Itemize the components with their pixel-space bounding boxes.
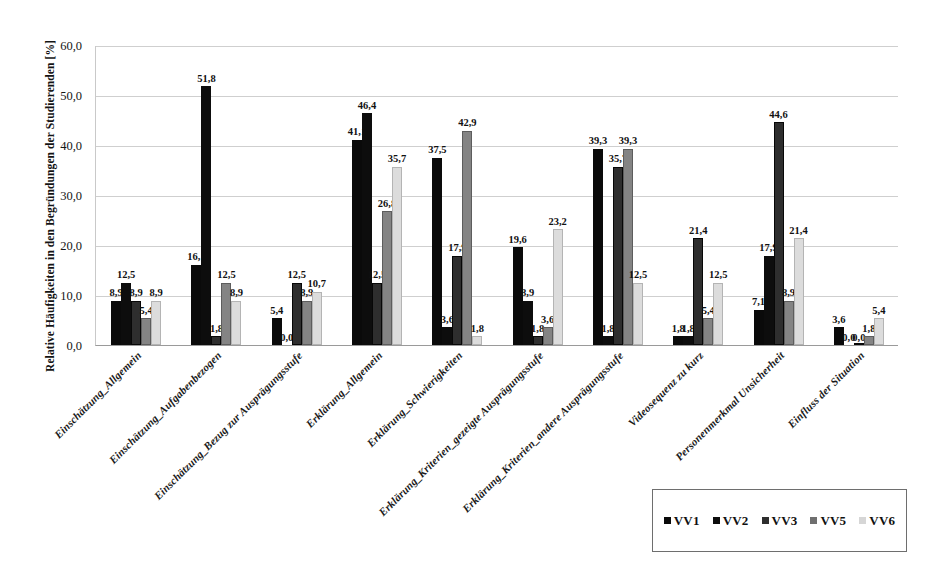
bar-rect: [523, 301, 533, 346]
plot-area: 8,912,58,95,48,916,151,81,812,58,95,40,0…: [95, 46, 898, 346]
legend-label: VV1: [674, 513, 700, 529]
bar: 17,9: [764, 45, 774, 345]
chart-legend: VV1VV2VV3VV5VV6: [652, 489, 907, 552]
bar: 8,9: [784, 45, 794, 345]
bar-rect: [191, 265, 201, 346]
bar-group: 39,31,835,739,312,5: [578, 45, 658, 345]
bar-rect: [201, 86, 211, 345]
bar: 8,9: [131, 45, 141, 345]
bar-rect: [452, 256, 462, 346]
bar: 0,0: [854, 45, 864, 345]
bar-rect: [352, 140, 362, 346]
bar-rect: [754, 310, 764, 346]
bar: 44,6: [774, 45, 784, 345]
bar-rect: [272, 318, 282, 345]
legend-label: VV3: [772, 513, 798, 529]
bar: 19,6: [513, 45, 523, 345]
bar-rect: [382, 211, 392, 345]
bar: 35,7: [392, 45, 402, 345]
bar-rect: [784, 301, 794, 346]
bar-rect: [211, 336, 221, 345]
bar: 42,9: [462, 45, 472, 345]
bar-group: 3,60,00,01,85,4: [819, 45, 899, 345]
bar-rect: [432, 158, 442, 346]
bar: 8,9: [151, 45, 161, 345]
bar: 46,4: [362, 45, 372, 345]
bar-chart: Relative Häufigkeiten in den Begründunge…: [0, 0, 926, 574]
bar-rect: [683, 336, 693, 345]
bar-rect: [131, 301, 141, 346]
bar-rect: [864, 336, 874, 345]
bar: 5,4: [141, 45, 151, 345]
bar: 7,1: [754, 45, 764, 345]
x-tick-label: Einfluss der Situation: [785, 349, 866, 430]
bar: 12,5: [633, 45, 643, 345]
bar-rect: [362, 113, 372, 345]
legend-item: VV2: [713, 513, 749, 529]
bar-rect: [703, 318, 713, 345]
x-axis-tick-labels: Einschätzung_AllgemeinEinschätzung_Aufga…: [95, 349, 898, 509]
legend-item: VV5: [810, 513, 846, 529]
y-tick-label: 30,0: [60, 189, 82, 204]
y-tick-label: 50,0: [60, 89, 82, 104]
bar: 35,7: [613, 45, 623, 345]
bar-rect: [472, 336, 482, 345]
bar: 1,8: [472, 45, 482, 345]
legend-swatch-icon: [810, 517, 817, 524]
bar: 21,4: [794, 45, 804, 345]
bar-rect: [874, 318, 884, 345]
bar: 3,6: [442, 45, 452, 345]
legend-item: VV6: [859, 513, 895, 529]
y-tick-label: 0,0: [66, 339, 82, 354]
bar-rect: [543, 327, 553, 345]
bar-rect: [513, 247, 523, 345]
x-tick-label: Erklärung_Kriterien_gezeigte Ausprägungs…: [376, 349, 545, 518]
bar: 21,4: [693, 45, 703, 345]
bar-rect: [151, 301, 161, 346]
bar-value-label: 8,9: [150, 288, 163, 299]
bar: 3,6: [834, 45, 844, 345]
bar: 8,9: [302, 45, 312, 345]
bar: 1,8: [533, 45, 543, 345]
bar-rect: [302, 301, 312, 346]
legend-swatch-icon: [859, 517, 866, 524]
bar-group: 5,40,012,58,910,7: [257, 45, 337, 345]
y-tick-label: 10,0: [60, 289, 82, 304]
bar-rect: [533, 336, 543, 345]
bar-rect: [231, 301, 241, 346]
bar: 5,4: [272, 45, 282, 345]
bar: 12,5: [121, 45, 131, 345]
bar-rect: [292, 283, 302, 346]
bar: 8,9: [231, 45, 241, 345]
bar: 1,8: [864, 45, 874, 345]
legend-label: VV5: [820, 513, 846, 529]
bar: 0,0: [844, 45, 854, 345]
legend-item: VV1: [664, 513, 700, 529]
bar-rect: [764, 256, 774, 346]
bar: 37,5: [432, 45, 442, 345]
bar-rect: [372, 283, 382, 346]
bar: 12,5: [292, 45, 302, 345]
bar-rect: [593, 149, 603, 346]
bar-rect: [613, 167, 623, 346]
bar: 16,1: [191, 45, 201, 345]
legend-swatch-icon: [713, 517, 720, 524]
legend-label: VV6: [869, 513, 895, 529]
y-tick-label: 40,0: [60, 139, 82, 154]
bar: 26,8: [382, 45, 392, 345]
bar: 5,4: [703, 45, 713, 345]
bar: 8,9: [111, 45, 121, 345]
y-axis-tick-labels: 0,010,020,030,040,050,060,0: [0, 46, 88, 346]
bar-rect: [111, 301, 121, 346]
bar-rect: [854, 343, 864, 345]
bar-rect: [673, 336, 683, 345]
bar-rect: [693, 238, 703, 345]
bar: 17,9: [452, 45, 462, 345]
bar: 8,9: [523, 45, 533, 345]
bar-rect: [221, 283, 231, 346]
bar-rect: [392, 167, 402, 346]
bar-rect: [774, 122, 784, 345]
bar-rect: [623, 149, 633, 346]
legend-label: VV2: [723, 513, 749, 529]
bar-rect: [834, 327, 844, 345]
